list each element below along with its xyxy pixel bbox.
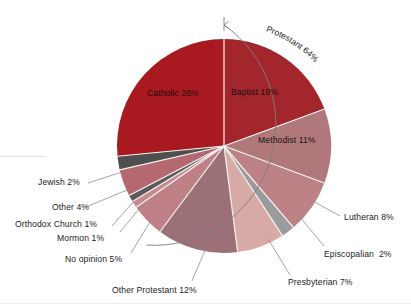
slice-label-jewish: Jewish 2% — [38, 177, 80, 187]
slice-label-other: Other 4% — [52, 202, 89, 212]
slice-label-episcopalian: Episcopalian 2% — [324, 249, 392, 259]
slice-label-baptist: Baptist 19% — [231, 87, 278, 97]
slice-label-other-protestant: Other Protestant 12% — [112, 285, 197, 295]
pie-chart-svg — [0, 0, 411, 307]
slice-label-presbyterian: Presbyterian 7% — [288, 277, 353, 287]
pie-chart-figure: Catholic 26% Baptist 19% Methodist 11% L… — [0, 0, 411, 307]
slice-label-mormon: Mormon 1% — [57, 233, 104, 243]
slice-label-no-opinion: No opinion 5% — [65, 254, 122, 264]
slice-label-lutheran: Lutheran 8% — [344, 212, 394, 222]
slice-label-methodist: Methodist 11% — [258, 135, 316, 145]
slice-label-orthodox-church: Orthodox Church 1% — [15, 219, 97, 229]
bottom-rule — [0, 303, 411, 304]
slice-label-catholic: Catholic 26% — [147, 88, 199, 98]
